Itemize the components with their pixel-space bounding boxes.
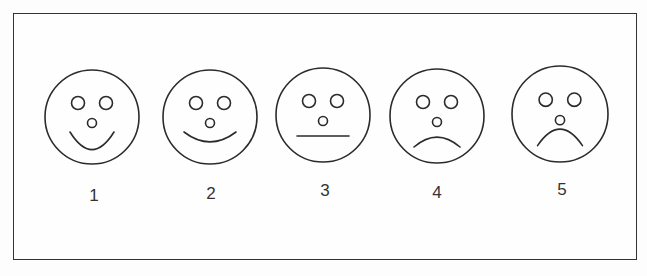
face-outline-icon — [276, 68, 370, 162]
face-number-label: 4 — [422, 183, 452, 203]
right-eye-icon — [100, 97, 113, 110]
left-eye-icon — [417, 96, 430, 109]
face-number-label: 2 — [196, 184, 226, 204]
right-eye-icon — [568, 93, 581, 106]
nose-icon — [206, 119, 215, 128]
mouth-big-frown-icon — [538, 129, 583, 146]
nose-icon — [88, 119, 97, 128]
face-1-big-smile — [45, 70, 139, 164]
face-5-big-frown — [512, 66, 608, 162]
left-eye-icon — [72, 97, 85, 110]
mouth-smile-icon — [184, 132, 236, 142]
right-eye-icon — [331, 95, 344, 108]
nose-icon — [319, 117, 328, 126]
mouth-frown-icon — [414, 137, 460, 147]
left-eye-icon — [539, 93, 552, 106]
right-eye-icon — [445, 96, 458, 109]
face-number-label: 1 — [79, 186, 109, 206]
face-number-label: 3 — [310, 181, 340, 201]
face-outline-icon — [390, 69, 484, 163]
face-2-smile — [163, 70, 257, 164]
face-outline-icon — [163, 70, 257, 164]
faces-scale — [0, 0, 647, 276]
left-eye-icon — [190, 97, 203, 110]
right-eye-icon — [218, 97, 231, 110]
face-3-neutral — [276, 68, 370, 162]
left-eye-icon — [303, 95, 316, 108]
nose-icon — [555, 116, 564, 125]
face-4-frown — [390, 69, 484, 163]
face-number-label: 5 — [547, 180, 577, 200]
nose-icon — [433, 118, 442, 127]
mouth-big-smile-icon — [70, 132, 114, 150]
face-outline-icon — [512, 66, 608, 162]
